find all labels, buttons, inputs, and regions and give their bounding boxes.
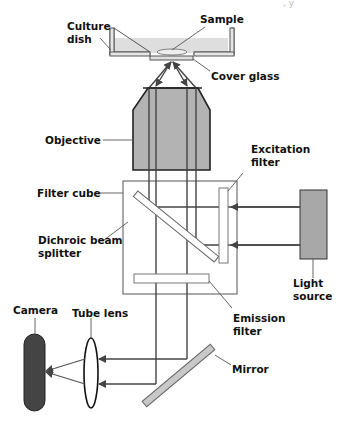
light-source-arrows (231, 207, 300, 245)
label-dichroic-line1: Dichroic beam (38, 234, 123, 246)
label-culture-dish-line1: Culture (67, 20, 111, 32)
cover-glass (150, 56, 193, 60)
label-camera: Camera (13, 304, 58, 316)
focused-beams-to-camera (46, 359, 85, 384)
tube-lens (84, 338, 98, 408)
microscope-diagram: , y (0, 0, 345, 425)
label-filter-cube: Filter cube (37, 187, 101, 199)
label-emission-filter-line2: filter (233, 325, 263, 337)
label-excitation-filter-line2: filter (251, 156, 281, 168)
label-sample: Sample (200, 13, 244, 25)
emission-filter (134, 274, 209, 283)
label-tube-lens: Tube lens (72, 307, 128, 319)
mirror (142, 344, 215, 407)
camera (24, 334, 45, 411)
label-excitation-filter-line1: Excitation (251, 143, 310, 155)
clipped-header-text: , y (283, 0, 295, 8)
label-mirror: Mirror (232, 363, 270, 375)
label-culture-dish-line2: dish (67, 33, 92, 45)
excitation-filter (219, 188, 228, 263)
label-objective: Objective (45, 134, 101, 146)
label-emission-filter-line1: Emission (233, 312, 286, 324)
label-light-source-line1: Light (293, 277, 323, 289)
label-cover-glass: Cover glass (211, 70, 279, 82)
objective (133, 88, 210, 170)
dichroic-beam-splitter (133, 191, 218, 262)
label-dichroic-line2: splitter (38, 247, 82, 259)
label-light-source-line2: source (293, 290, 332, 302)
excitation-beams-to-sample (149, 62, 196, 88)
light-source (300, 190, 327, 259)
